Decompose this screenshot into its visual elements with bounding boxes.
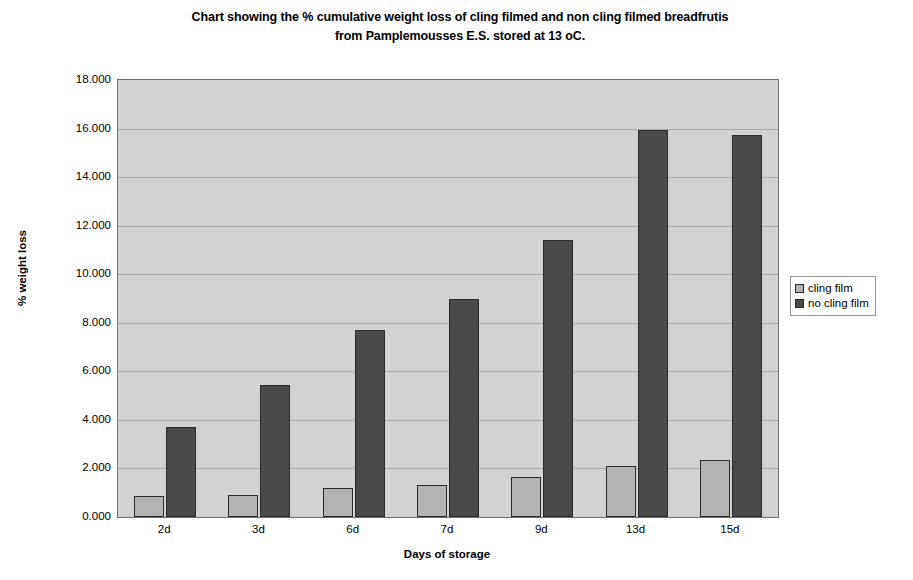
bar-group xyxy=(118,80,212,517)
y-tick-label: 18.000 xyxy=(49,73,111,85)
bar-2d-no-cling-film[interactable] xyxy=(166,427,196,517)
chart-title-line-2: from Pamplemousses E.S. stored at 13 oC. xyxy=(90,27,830,46)
y-tick-label: 0.000 xyxy=(49,510,111,522)
bar-9d-cling-film[interactable] xyxy=(511,477,541,517)
legend-label: no cling film xyxy=(808,297,869,310)
bar-15d-cling-film[interactable] xyxy=(700,460,730,517)
legend-label: cling film xyxy=(808,282,853,295)
y-tick-label: 16.000 xyxy=(49,122,111,134)
chart-legend: cling filmno cling film xyxy=(790,276,876,316)
x-tick-label-15d: 15d xyxy=(683,522,777,536)
x-tick-label-3d: 3d xyxy=(211,522,305,536)
y-tick-label: 12.000 xyxy=(49,219,111,231)
legend-swatch-icon xyxy=(795,284,804,293)
x-tick-label-9d: 9d xyxy=(494,522,588,536)
bar-7d-no-cling-film[interactable] xyxy=(449,299,479,518)
bar-15d-no-cling-film[interactable] xyxy=(732,135,762,517)
x-tick-label-2d: 2d xyxy=(117,522,211,536)
bar-group xyxy=(589,80,683,517)
bar-6d-cling-film[interactable] xyxy=(323,488,353,517)
bar-3d-cling-film[interactable] xyxy=(228,495,258,517)
bar-13d-no-cling-film[interactable] xyxy=(638,130,668,517)
x-tick-label-7d: 7d xyxy=(400,522,494,536)
x-axis-tick-labels: 2d3d6d7d9d13d15d xyxy=(117,522,777,540)
plot-area xyxy=(117,79,779,518)
legend-entry-cling-film[interactable]: cling film xyxy=(795,281,869,296)
y-tick-label: 2.000 xyxy=(49,461,111,473)
chart-title: Chart showing the % cumulative weight lo… xyxy=(90,8,830,46)
bar-13d-cling-film[interactable] xyxy=(606,466,636,517)
y-tick-label: 4.000 xyxy=(49,413,111,425)
y-tick-label: 14.000 xyxy=(49,170,111,182)
x-tick-label-6d: 6d xyxy=(306,522,400,536)
bar-group xyxy=(307,80,401,517)
bar-group xyxy=(401,80,495,517)
bar-6d-no-cling-film[interactable] xyxy=(355,330,385,517)
y-tick-label: 10.000 xyxy=(49,267,111,279)
bar-3d-no-cling-film[interactable] xyxy=(260,385,290,517)
chart-title-line-1: Chart showing the % cumulative weight lo… xyxy=(90,8,830,27)
legend-entry-no-cling-film[interactable]: no cling film xyxy=(795,296,869,311)
bar-7d-cling-film[interactable] xyxy=(417,485,447,517)
y-axis-tick-labels: 0.0002.0004.0006.0008.00010.00012.00014.… xyxy=(45,0,111,580)
y-axis-title: % weight loss xyxy=(16,208,28,328)
bars-layer xyxy=(118,80,778,517)
bar-group xyxy=(212,80,306,517)
legend-swatch-icon xyxy=(795,299,804,308)
x-tick-label-13d: 13d xyxy=(588,522,682,536)
bar-2d-cling-film[interactable] xyxy=(134,496,164,517)
y-tick-label: 6.000 xyxy=(49,364,111,376)
x-axis-title: Days of storage xyxy=(117,548,777,560)
bar-9d-no-cling-film[interactable] xyxy=(543,240,573,517)
y-tick-label: 8.000 xyxy=(49,316,111,328)
bar-group xyxy=(684,80,778,517)
bar-group xyxy=(495,80,589,517)
